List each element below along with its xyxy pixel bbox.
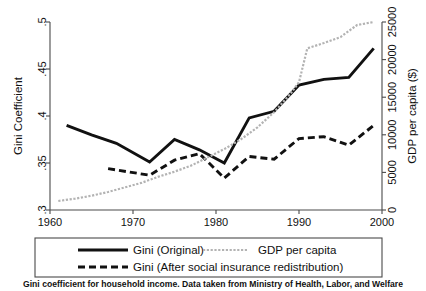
axis-tickmarks (46, 22, 386, 214)
chart-caption: Gini coefficient for household income. D… (23, 279, 403, 289)
right-axis-tick-labels: 0500010000150002000025000 (386, 7, 398, 213)
right-tick-label: 5000 (386, 160, 398, 184)
legend-label: Gini (Original) (133, 244, 204, 256)
legend-label: Gini (After social insurance redistribut… (133, 261, 343, 273)
x-axis-tick-labels: 19601970198019902000 (38, 216, 394, 228)
x-tick-label: 1960 (38, 216, 62, 228)
legend-label: GDP per capita (258, 244, 337, 256)
legend-entries: Gini (Original)GDP per capitaGini (After… (78, 244, 343, 273)
right-tick-label: 20000 (386, 44, 398, 75)
right-tick-label: 15000 (386, 82, 398, 113)
right-tick-label: 0 (386, 207, 398, 213)
right-axis-title: GDP per capita ($) (406, 68, 418, 164)
right-tick-label: 10000 (386, 120, 398, 151)
gini-gdp-line-chart: .3.35.4.45.5 0500010000150002000025000 1… (0, 0, 426, 291)
x-tick-label: 1980 (204, 216, 228, 228)
series-line-gdp-per-capita (58, 22, 373, 201)
x-tick-label: 1990 (287, 216, 311, 228)
x-tick-label: 2000 (370, 216, 394, 228)
x-tick-label: 1970 (121, 216, 145, 228)
chart-figure: .3.35.4.45.5 0500010000150002000025000 1… (0, 0, 426, 291)
series-line-gini-original (67, 48, 374, 163)
series-layer (58, 22, 373, 201)
right-tick-label: 25000 (386, 7, 398, 38)
left-axis-title: Gini Coefficient (12, 76, 24, 155)
